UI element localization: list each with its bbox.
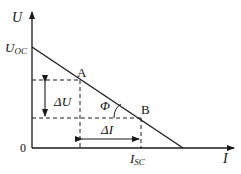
point-a-label: A bbox=[77, 65, 87, 80]
delta-u-label: ΔU bbox=[53, 94, 73, 109]
angle-phi-label: Φ bbox=[100, 98, 110, 113]
delta-i-label: ΔI bbox=[100, 122, 114, 137]
uoc-label: UOC bbox=[5, 40, 28, 56]
origin-label: 0 bbox=[20, 141, 26, 155]
x-axis-label: I bbox=[222, 151, 229, 166]
y-axis-label: U bbox=[12, 10, 23, 25]
point-b-label: B bbox=[141, 102, 150, 117]
isc-label: ISC bbox=[129, 151, 146, 167]
ui-diagram: U I 0 UOC ISC A B ΔU ΔI Φ bbox=[0, 0, 241, 174]
